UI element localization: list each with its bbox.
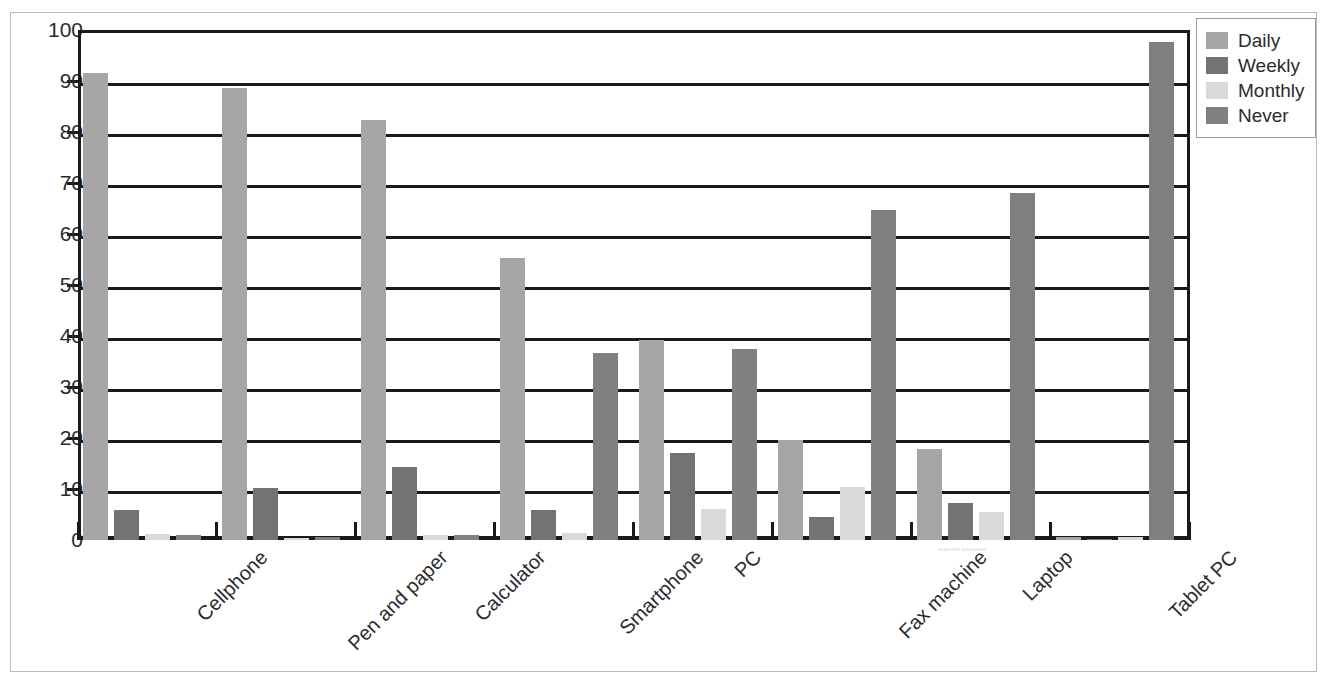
x-axis-category-label: PC [730, 546, 766, 582]
x-axis-labels: CellphonePen and paperCalculatorSmartpho… [78, 546, 1190, 666]
y-axis-tick-label: 50 [23, 274, 83, 295]
gridline [81, 389, 1187, 392]
legend-item[interactable]: Daily [1206, 28, 1305, 53]
legend-item[interactable]: Never [1206, 103, 1305, 128]
legend-item[interactable]: Monthly [1206, 78, 1305, 103]
x-axis-category-label: Fax machine [894, 546, 991, 643]
legend-item[interactable]: Weekly [1206, 53, 1305, 78]
scan-artifact-text: scanned document [938, 546, 987, 552]
x-axis-category-label: Laptop [1017, 546, 1077, 606]
y-axis-tick-label: 30 [23, 376, 83, 397]
gridline [81, 491, 1187, 494]
y-axis-tick-label: 40 [23, 325, 83, 346]
y-axis-tick-label: 80 [23, 121, 83, 142]
legend-swatch-weekly [1206, 57, 1228, 74]
x-axis-category-label: Pen and paper [343, 546, 452, 655]
legend-label: Never [1238, 106, 1289, 125]
gridline [81, 440, 1187, 443]
gridline [81, 83, 1187, 86]
y-axis-tick-label: 60 [23, 223, 83, 244]
gridline [81, 287, 1187, 290]
plot-area [78, 30, 1190, 540]
x-axis-category-label: Smartphone [614, 546, 707, 639]
legend-swatch-monthly [1206, 82, 1228, 99]
x-axis-category-label: Calculator [470, 546, 550, 626]
x-axis-category-label: Cellphone [192, 546, 272, 626]
legend: DailyWeeklyMonthlyNever [1196, 18, 1316, 138]
gridline [81, 134, 1187, 137]
legend-label: Monthly [1238, 81, 1305, 100]
legend-label: Weekly [1238, 56, 1300, 75]
legend-label: Daily [1238, 31, 1280, 50]
chart-canvas: 0102030405060708090100 CellphonePen and … [0, 0, 1327, 687]
legend-swatch-daily [1206, 32, 1228, 49]
y-axis-tick-label: 0 [23, 529, 83, 550]
x-axis-category-label: Tablet PC [1164, 546, 1242, 624]
gridline [81, 236, 1187, 239]
y-axis-tick-label: 70 [23, 172, 83, 193]
y-axis-tick-label: 20 [23, 427, 83, 448]
gridline [81, 185, 1187, 188]
y-axis-tick-label: 10 [23, 478, 83, 499]
legend-swatch-never [1206, 107, 1228, 124]
y-axis-tick-label: 90 [23, 70, 83, 91]
y-axis-tick-label: 100 [23, 19, 83, 40]
gridline [81, 338, 1187, 341]
